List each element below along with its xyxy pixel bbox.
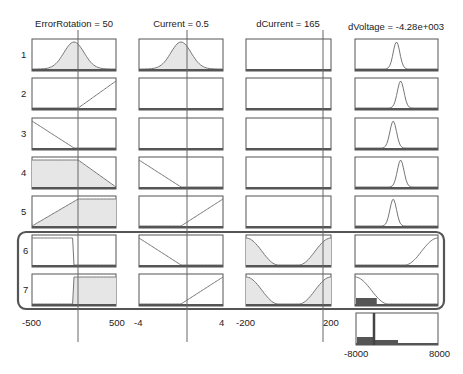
baseline-bar [139,304,223,306]
implied-output-area [356,298,377,304]
mf-plot-box[interactable] [139,235,223,267]
aggregate-area [374,340,398,343]
baseline-bar [139,148,223,150]
input-title-dcurrent: dCurrent = 165 [256,19,320,29]
baseline-bar [32,187,116,189]
baseline-bar [246,187,331,189]
input-title-current: Current = 0.5 [153,19,209,29]
mf-plot-box[interactable] [32,78,116,110]
mf-plot-box[interactable] [139,274,223,306]
mf-plot-box[interactable] [139,196,223,228]
baseline-bar [139,108,223,110]
mf-plot-box[interactable] [246,196,331,228]
baseline-bar [32,108,116,110]
mf-plot-box[interactable] [139,157,223,189]
baseline-bar [139,265,223,267]
baseline-bar [246,108,331,110]
baseline-bar [246,148,331,150]
baseline-bar [246,226,331,228]
baseline-bar [32,265,116,267]
mf-plot-box[interactable] [246,157,331,189]
baseline-bar [355,148,438,150]
mf-plot-box[interactable] [355,235,438,267]
baseline-bar [355,226,438,228]
baseline-bar [355,187,438,189]
rule-viewer-plot [0,0,463,374]
errorrotation-max-label: 500 [109,318,125,328]
mf-plot-box[interactable] [139,118,223,150]
baseline-bar [32,226,116,228]
mf-plot-box[interactable] [32,118,116,150]
rule-number[interactable]: 5 [21,207,26,217]
mf-plot-box[interactable] [246,78,331,110]
mf-plot-box[interactable] [355,196,438,228]
baseline-bar [355,69,438,71]
baseline-bar [32,304,116,306]
mf-plot-box[interactable] [355,118,438,150]
input-title-errorrotation: ErrorRotation = 50 [35,19,113,29]
current-min-label: -4 [134,318,142,328]
aggregate-area [357,337,373,343]
rule-number[interactable]: 6 [23,246,28,256]
rule-number[interactable]: 3 [21,129,26,139]
mf-plot-box[interactable] [246,118,331,150]
output-title-dvoltage: dVoltage = -4.28e+003 [348,22,444,32]
baseline-bar [355,108,438,110]
baseline-bar [356,343,438,345]
baseline-bar [32,69,116,71]
baseline-bar [246,69,331,71]
baseline-bar [246,265,331,267]
mf-plot-box[interactable] [139,78,223,110]
baseline-bar [32,148,116,150]
dvoltage-min-label: -8000 [344,349,368,359]
current-max-label: 4 [219,318,224,328]
baseline-bar [139,69,223,71]
rule-number[interactable]: 2 [21,89,26,99]
baseline-bar [246,304,331,306]
rule-number[interactable]: 4 [21,168,26,178]
dcurrent-min-label: -200 [236,318,255,328]
baseline-bar [139,226,223,228]
rule-viewer: ErrorRotation = 50 Current = 0.5 dCurren… [0,0,463,374]
mf-plot-box[interactable] [355,39,438,71]
baseline-bar [139,187,223,189]
rule-number[interactable]: 7 [23,285,28,295]
baseline-bar [355,265,438,267]
dcurrent-max-label: 200 [323,318,339,328]
errorrotation-min-label: -500 [22,318,41,328]
rule-number[interactable]: 1 [21,50,26,60]
dvoltage-max-label: 8000 [429,349,450,359]
baseline-bar [355,304,438,306]
mf-plot-box[interactable] [246,39,331,71]
